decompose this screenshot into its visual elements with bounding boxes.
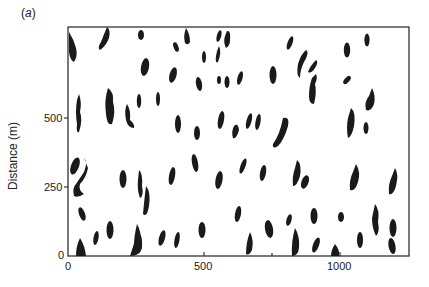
patches <box>68 27 397 256</box>
plot-frame <box>68 27 409 256</box>
patch-map-plot <box>0 0 429 287</box>
